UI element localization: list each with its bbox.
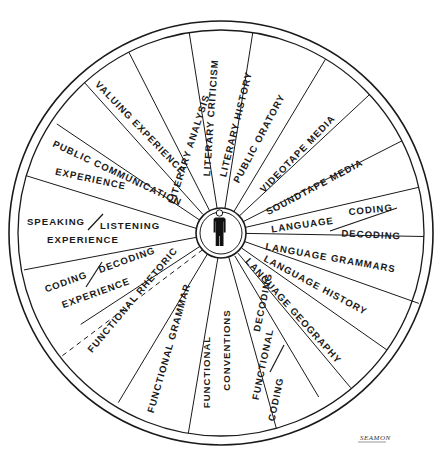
svg-text:LISTENING: LISTENING — [100, 220, 160, 231]
svg-text:FUNCTIONAL: FUNCTIONAL — [201, 336, 212, 408]
label-functional-conventions: FUNCTIONAL CONVENTIONS — [201, 309, 232, 408]
communication-wheel-diagram: LITERARY ANALYSIS LITERARY CRITICISM LIT… — [0, 0, 441, 457]
svg-text:DECODING: DECODING — [341, 227, 401, 241]
svg-text:SPEAKING: SPEAKING — [27, 216, 85, 227]
svg-text:EXPERIENCE: EXPERIENCE — [47, 234, 119, 245]
svg-text:LANGUAGE: LANGUAGE — [271, 215, 335, 235]
label-coding-decoding-experience: CODING DECODING EXPERIENCE — [43, 244, 157, 310]
label-speaking-listening-experience: SPEAKING LISTENING EXPERIENCE — [27, 214, 160, 245]
functional-coding-decoding-slash — [270, 345, 284, 372]
label-language-coding-decoding: LANGUAGE CODING DECODING — [271, 202, 402, 242]
svg-text:CONVENTIONS: CONVENTIONS — [221, 309, 232, 390]
artist-signature: SEAMON — [360, 434, 391, 442]
svg-text:DECODING: DECODING — [251, 272, 274, 333]
label-functional-grammar: FUNCTIONAL GRAMMAR — [145, 282, 193, 414]
svg-text:DECODING: DECODING — [97, 244, 157, 275]
svg-text:CODING: CODING — [43, 269, 88, 295]
svg-text:CODING: CODING — [348, 202, 393, 218]
